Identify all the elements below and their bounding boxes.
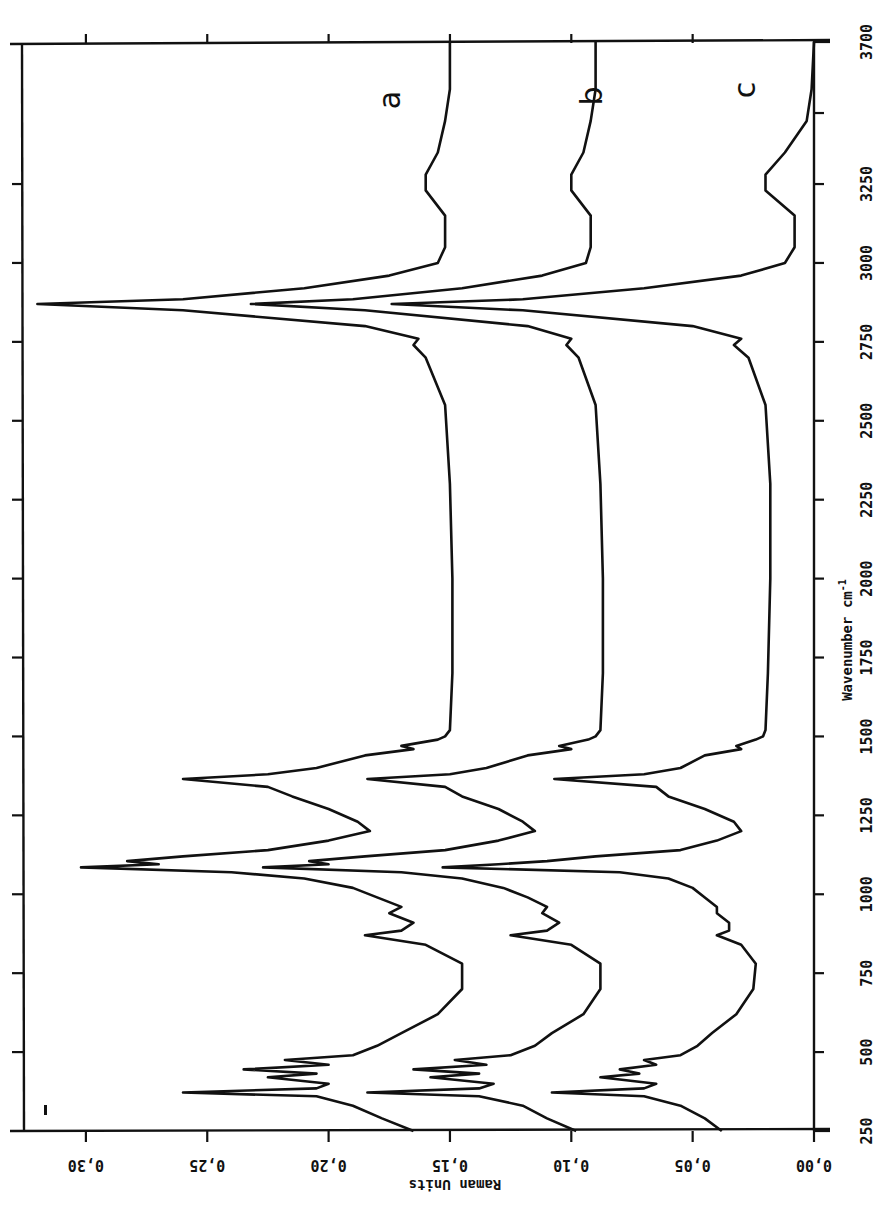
- tick-labels: 2505007501000125015001750200022502500275…: [68, 24, 876, 1174]
- wavenumber-tick-label: 3700: [858, 24, 876, 60]
- intensity-tick-label: 0,15: [432, 1156, 468, 1174]
- wavenumber-tick-label: 750: [858, 960, 876, 987]
- wavenumber-tick-label: 3250: [858, 166, 876, 202]
- intensity-tick-label: 0,30: [68, 1156, 104, 1174]
- wavenumber-tick-label: 2500: [858, 403, 876, 439]
- wavenumber-tick-label: 250: [858, 1117, 876, 1144]
- intensity-tick-label: 0,00: [796, 1156, 832, 1174]
- intensity-tick-label: 0,20: [311, 1156, 347, 1174]
- spectrum-trace-b: [251, 42, 603, 1131]
- wavenumber-tick-label: 2250: [858, 482, 876, 518]
- wavenumber-tick-label: 1750: [858, 639, 876, 675]
- wavenumber-tick-label: 1250: [858, 797, 876, 833]
- series-label-a: a: [372, 91, 407, 109]
- wavenumber-tick-label: 1000: [858, 876, 876, 912]
- ylabel-raman-units: Raman Units: [409, 1177, 502, 1193]
- wavenumber-tick-label: 1500: [858, 718, 876, 754]
- series-label-b: b: [574, 86, 609, 105]
- xlabel-exponent: -1: [837, 579, 848, 591]
- left-frame-axis: [22, 44, 24, 1131]
- intensity-tick-label: 0,05: [675, 1156, 711, 1174]
- intensity-tick-label: 0,10: [553, 1156, 589, 1174]
- xlabel-wavenumber: Wavenumber cm-1: [837, 579, 855, 701]
- spectrum-trace-a: [37, 42, 462, 1131]
- wavenumber-tick-label: 2750: [858, 324, 876, 360]
- wavenumber-tick-label: 3000: [858, 245, 876, 281]
- top-frame-axis: [10, 40, 830, 44]
- wavenumber-tick-label: 2000: [858, 561, 876, 597]
- wavenumber-tick-label: 500: [858, 1039, 876, 1066]
- intensity-tick-label: 0,25: [189, 1156, 225, 1174]
- axis-ticks: [12, 34, 830, 1142]
- series-label-c: c: [727, 82, 762, 99]
- intensity-axis: [10, 1129, 830, 1131]
- stray-mark: [44, 1105, 47, 1115]
- xlabel-wavenumber-text: Wavenumber cm: [839, 591, 855, 701]
- spectrum-traces: [37, 42, 814, 1131]
- raman-spectrum-chart: 2505007501000125015001750200022502500275…: [0, 0, 889, 1209]
